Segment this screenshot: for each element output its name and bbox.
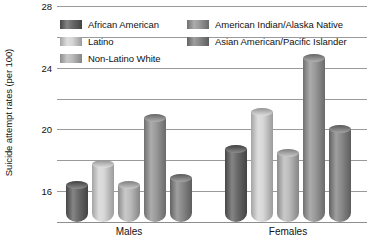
y-axis-tick-label: 20	[41, 124, 52, 135]
x-axis-group-label: Males	[116, 226, 143, 237]
y-axis-title: Suicide attempt rates (per 100)	[0, 0, 18, 225]
bar-body	[144, 118, 166, 222]
bar	[225, 149, 247, 222]
legend-item: Latino	[60, 36, 187, 47]
legend-swatch	[187, 37, 209, 46]
bar-body	[225, 149, 247, 222]
legend-label: African American	[88, 19, 159, 30]
legend-item: Asian American/Pacific Islander	[187, 36, 370, 47]
legend: African AmericanAmerican Indian/Alaska N…	[60, 16, 370, 68]
bar-body	[303, 58, 325, 222]
legend-swatch	[60, 37, 82, 46]
bar	[329, 129, 351, 222]
y-axis-tick-label: 24	[41, 62, 52, 73]
bar-body	[277, 153, 299, 222]
bar	[251, 112, 273, 222]
y-axis-tick-label: 16	[41, 186, 52, 197]
bar-chart: Suicide attempt rates (per 100) 04812162…	[0, 0, 372, 248]
bar-body	[329, 129, 351, 222]
bar-body	[118, 185, 140, 222]
bar-top-cap	[118, 181, 140, 189]
y-axis-title-label: Suicide attempt rates (per 100)	[4, 49, 15, 176]
bar	[277, 153, 299, 222]
legend-label: Latino	[88, 36, 114, 47]
bar	[66, 185, 88, 222]
bar-body	[170, 178, 192, 222]
bar-top-cap	[144, 114, 166, 122]
bar-body	[66, 185, 88, 222]
bar	[144, 118, 166, 222]
legend-label: Asian American/Pacific Islander	[215, 36, 347, 47]
bar	[118, 185, 140, 222]
legend-swatch	[187, 20, 209, 29]
bar-top-cap	[277, 149, 299, 157]
legend-item: Non-Latino White	[60, 53, 187, 64]
legend-swatch	[60, 54, 82, 63]
bar	[92, 164, 114, 222]
bar-top-cap	[225, 145, 247, 153]
gridline: 0	[57, 222, 367, 223]
legend-swatch	[60, 20, 82, 29]
bar-body	[92, 164, 114, 222]
legend-label: American Indian/Alaska Native	[215, 19, 343, 30]
bar	[170, 178, 192, 222]
legend-item: African American	[60, 19, 187, 30]
bar-body	[251, 112, 273, 222]
bar-top-cap	[66, 181, 88, 189]
bar	[303, 58, 325, 222]
y-axis-tick-label: 28	[41, 1, 52, 12]
bar-top-cap	[170, 174, 192, 182]
x-axis-group-label: Females	[269, 226, 307, 237]
legend-item: American Indian/Alaska Native	[187, 19, 370, 30]
legend-label: Non-Latino White	[88, 53, 161, 64]
